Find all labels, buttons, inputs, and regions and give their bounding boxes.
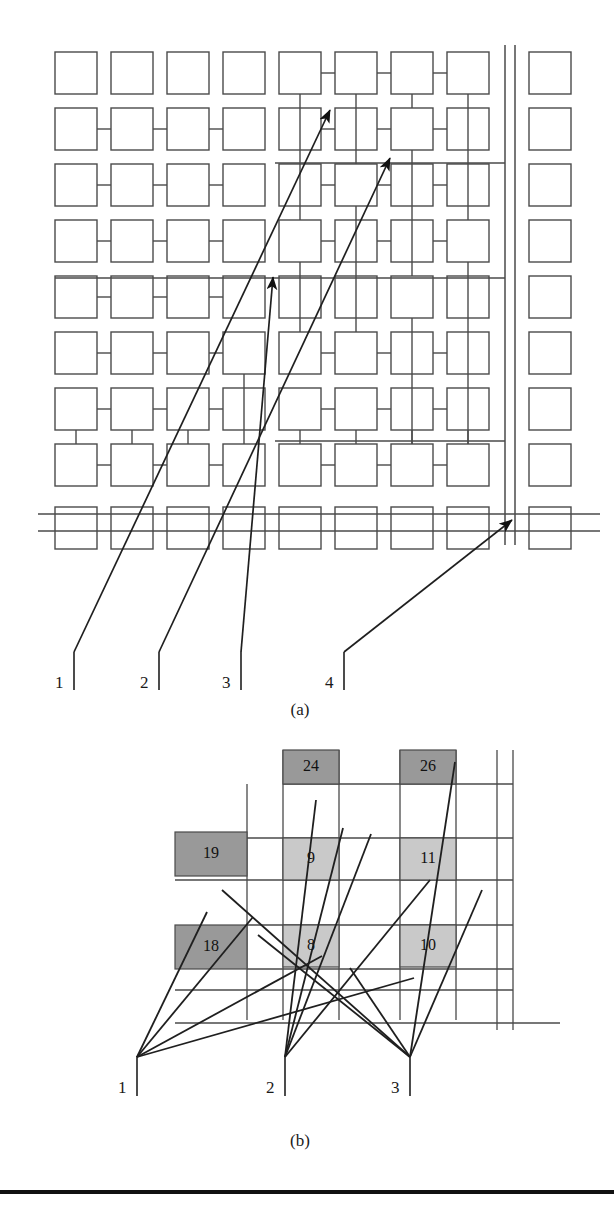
panel-b-fan-lines bbox=[137, 762, 482, 1057]
panel-a-leader-label-4: 4 bbox=[325, 673, 334, 693]
grid-cell-extra bbox=[529, 220, 571, 262]
grid-cell bbox=[223, 332, 265, 374]
grid-cell-extra bbox=[529, 444, 571, 486]
panel-b-cell-grid bbox=[175, 750, 560, 1030]
grid-cell bbox=[335, 444, 377, 486]
panel-a-arrows bbox=[74, 110, 512, 652]
grid-cell bbox=[223, 220, 265, 262]
grid-cell bbox=[111, 108, 153, 150]
panel-b-cell-light bbox=[400, 838, 456, 880]
panel-a-cell-grid bbox=[55, 52, 571, 549]
panel-b-cell-dark bbox=[283, 750, 339, 784]
grid-cell bbox=[55, 164, 97, 206]
grid-cell bbox=[55, 388, 97, 430]
leader-arrow bbox=[74, 110, 330, 652]
panel-a-leader-label-1: 1 bbox=[55, 673, 64, 693]
grid-cell bbox=[447, 52, 489, 94]
panel-b-cell-dark bbox=[175, 925, 247, 969]
grid-cell bbox=[55, 220, 97, 262]
panel-b-cell-dark bbox=[400, 750, 456, 784]
grid-cell bbox=[447, 220, 489, 262]
panel-a-leader-label-3: 3 bbox=[222, 673, 231, 693]
grid-cell bbox=[167, 220, 209, 262]
leader-arrow bbox=[159, 158, 390, 652]
panel-b-caption: (b) bbox=[260, 1131, 340, 1151]
panel-b-fan-line bbox=[410, 890, 482, 1057]
grid-cell bbox=[279, 52, 321, 94]
grid-cell bbox=[391, 108, 433, 150]
grid-cell-extra bbox=[529, 108, 571, 150]
grid-cell bbox=[223, 164, 265, 206]
panel-b-cell-dark bbox=[175, 832, 247, 876]
panel-b-cell-light bbox=[400, 925, 456, 967]
panel-b-fan-line bbox=[222, 890, 410, 1057]
grid-cell-extra bbox=[529, 164, 571, 206]
grid-cell bbox=[55, 332, 97, 374]
grid-cell bbox=[223, 52, 265, 94]
grid-cell bbox=[55, 444, 97, 486]
grid-cell bbox=[167, 52, 209, 94]
grid-cell bbox=[167, 276, 209, 318]
grid-cell bbox=[391, 52, 433, 94]
grid-cell bbox=[391, 444, 433, 486]
grid-cell bbox=[167, 444, 209, 486]
panel-b-diagram bbox=[0, 740, 614, 1140]
leader-arrow bbox=[344, 520, 512, 652]
grid-cell-extra bbox=[529, 52, 571, 94]
grid-cell bbox=[167, 332, 209, 374]
grid-cell bbox=[223, 276, 265, 318]
footer-rule bbox=[0, 1190, 614, 1194]
grid-cell bbox=[447, 444, 489, 486]
panel-a-caption: (a) bbox=[260, 700, 340, 720]
grid-cell bbox=[111, 220, 153, 262]
grid-cell bbox=[223, 108, 265, 150]
panel-a-leader-label-2: 2 bbox=[140, 673, 149, 693]
grid-cell bbox=[335, 52, 377, 94]
grid-cell bbox=[55, 52, 97, 94]
grid-cell bbox=[111, 388, 153, 430]
grid-cell bbox=[391, 276, 433, 318]
grid-cell bbox=[111, 444, 153, 486]
grid-cell bbox=[111, 52, 153, 94]
grid-cell bbox=[279, 388, 321, 430]
panel-a-diagram bbox=[0, 0, 614, 720]
figure-root: 1 2 3 4 (a) 24261991118810 1 2 3 (b) bbox=[0, 0, 614, 1211]
grid-cell bbox=[55, 276, 97, 318]
panel-b-leader-label-1: 1 bbox=[118, 1078, 127, 1098]
panel-b-leader-label-3: 3 bbox=[391, 1078, 400, 1098]
grid-cell-extra bbox=[529, 388, 571, 430]
grid-cell bbox=[111, 332, 153, 374]
grid-cell bbox=[111, 276, 153, 318]
grid-cell-extra bbox=[529, 276, 571, 318]
grid-cell-extra bbox=[529, 332, 571, 374]
panel-b-fan-line bbox=[137, 956, 322, 1057]
grid-cell bbox=[167, 108, 209, 150]
panel-b-fan-line bbox=[410, 762, 455, 1057]
grid-cell bbox=[279, 444, 321, 486]
grid-cell bbox=[279, 220, 321, 262]
panel-a-connector-lines bbox=[76, 73, 468, 465]
grid-cell bbox=[335, 388, 377, 430]
grid-cell bbox=[55, 108, 97, 150]
grid-cell bbox=[111, 164, 153, 206]
grid-cell bbox=[279, 332, 321, 374]
panel-a-leader-ticks bbox=[74, 652, 344, 690]
grid-cell bbox=[335, 332, 377, 374]
grid-cell bbox=[167, 164, 209, 206]
panel-b-leader-label-2: 2 bbox=[266, 1078, 275, 1098]
panel-a-rail-lines bbox=[38, 45, 600, 545]
